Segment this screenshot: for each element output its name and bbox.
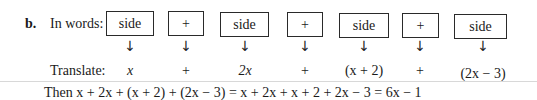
translation-term: 2x [238,63,251,79]
word-box-text: + [301,17,309,33]
word-box-side-3: side [339,13,389,38]
word-box-text: side [233,17,256,33]
word-box-text: + [182,16,190,32]
word-box-text: side [469,19,492,35]
word-box-text: + [417,18,425,34]
word-box-text: side [119,16,142,32]
word-box-side-2: side [220,12,269,37]
problem-label: b. [25,16,36,32]
divider-line [0,81,537,82]
down-arrow-icon: ↓ [235,38,255,54]
word-box-plus-3: + [402,13,439,38]
down-arrow-icon: ↓ [120,38,140,54]
word-box-side-4: side [454,14,507,39]
word-box-text: side [353,18,376,34]
word-box-plus-1: + [168,11,204,36]
word-box-plus-2: + [287,12,323,37]
word-box-side-1: side [106,11,154,36]
translation-term: x [127,63,133,79]
simplification-line: Then x + 2x + (x + 2) + (2x − 3) = x + 2… [44,85,422,100]
down-arrow-icon: ↓ [176,38,196,54]
translate-label: Translate: [50,63,105,79]
down-arrow-icon: ↓ [473,38,493,54]
in-words-label: In words: [50,16,103,32]
translation-operator: + [416,63,424,79]
down-arrow-icon: ↓ [295,38,315,54]
translation-term: (2x − 3) [460,66,505,82]
translation-term: (x + 2) [345,63,383,79]
translation-operator: + [301,63,309,79]
down-arrow-icon: ↓ [354,38,374,54]
down-arrow-icon: ↓ [410,38,430,54]
translation-operator: + [182,63,190,79]
